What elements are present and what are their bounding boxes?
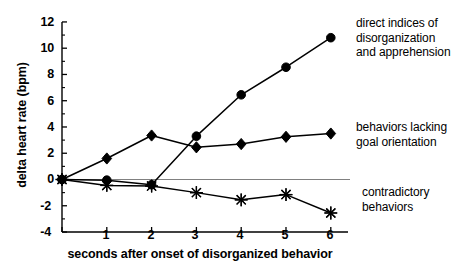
chart-figure: delta heart rate (bpm) seconds after ons…	[0, 0, 468, 274]
annotation-line: direct indices of	[356, 16, 450, 31]
annotation-line: behaviors lacking	[356, 120, 447, 135]
axes	[62, 22, 348, 232]
annotation-direct-indices: direct indices of disorganization and ap…	[356, 16, 450, 60]
annotation-line: goal orientation	[356, 135, 447, 150]
annotation-line: contradictory	[362, 185, 429, 200]
data-series-group	[56, 33, 338, 219]
annotation-line: and apprehension	[356, 45, 450, 60]
annotation-contradictory-behaviors: contradictory behaviors	[362, 185, 429, 214]
annotation-line: behaviors	[362, 200, 429, 215]
annotation-behaviors-lacking-goal-orientation: behaviors lacking goal orientation	[356, 120, 447, 149]
annotation-line: disorganization	[356, 31, 450, 46]
